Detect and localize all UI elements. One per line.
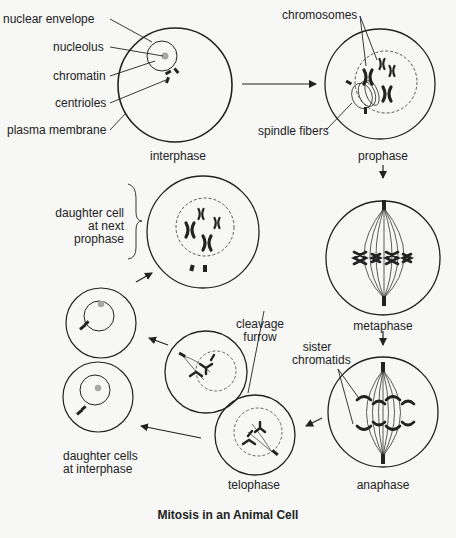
label-cleavage-furrow: cleavage furrow xyxy=(225,318,295,344)
arrow-telophase-to-daughter-top xyxy=(149,338,168,345)
stage-interphase: interphase xyxy=(138,150,218,163)
plasma-membrane xyxy=(118,28,232,142)
label-chromatin: chromatin xyxy=(53,70,106,83)
metaphase-cell xyxy=(326,200,440,315)
anaphase-cell xyxy=(328,357,438,467)
bracket xyxy=(128,184,142,259)
label-nuclear-envelope: nuclear envelope xyxy=(3,13,94,26)
stage-prophase: prophase xyxy=(343,150,423,163)
mitosis-diagram: nuclear envelope nucleolus chromatin cen… xyxy=(0,0,456,538)
label-nucleolus: nucleolus xyxy=(53,41,104,54)
label-daughter-next-prophase: daughter cell at next prophase xyxy=(46,207,124,246)
daughter-interphase-top xyxy=(66,288,136,358)
prophase-cell xyxy=(325,16,435,139)
label-chromosomes: chromosomes xyxy=(282,9,357,22)
interphase-cell xyxy=(110,19,232,142)
arrow-daughter-to-next-prophase xyxy=(136,273,152,282)
label-centrioles: centrioles xyxy=(55,97,106,110)
label-spindle-fibers: spindle fibers xyxy=(258,125,329,138)
daughter-next-prophase-cell xyxy=(128,176,259,288)
diagram-title: Mitosis in an Animal Cell xyxy=(0,508,456,522)
daughter-interphase-bottom xyxy=(63,362,133,432)
arrow-anaphase-to-telophase xyxy=(306,418,322,426)
stage-anaphase: anaphase xyxy=(343,479,423,492)
stage-metaphase: metaphase xyxy=(343,320,423,333)
label-plasma-membrane: plasma membrane xyxy=(7,124,106,137)
arrow-telophase-to-daughter-bottom xyxy=(141,426,201,438)
label-daughter-interphase: daughter cells at interphase xyxy=(63,450,138,476)
label-sister-chromatids: sister chromatids xyxy=(292,341,342,367)
stage-telophase: telophase xyxy=(214,479,294,492)
